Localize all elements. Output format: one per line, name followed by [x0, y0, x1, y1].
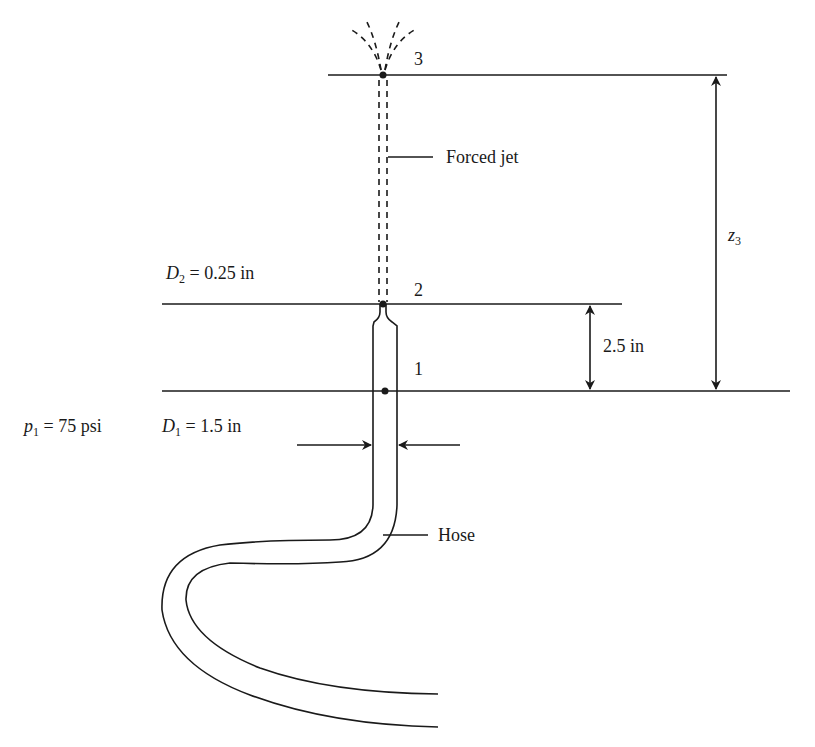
- label-point-3: 3: [414, 50, 423, 68]
- label-z3: z3: [728, 226, 741, 247]
- d2-value: = 0.25 in: [185, 263, 254, 283]
- label-p1: p1 = 75 psi: [24, 417, 102, 438]
- label-point-2: 2: [414, 281, 423, 299]
- label-forced-jet: Forced jet: [446, 148, 518, 166]
- point-1-dot: [382, 388, 389, 395]
- z3-subscript: 3: [735, 234, 741, 248]
- z3-symbol: z: [728, 225, 735, 245]
- label-d1: D1 = 1.5 in: [162, 417, 241, 438]
- label-point-1: 1: [414, 360, 423, 378]
- p1-value: = 75 psi: [39, 416, 102, 436]
- point-3-dot: [380, 72, 387, 79]
- point-2-dot: [380, 301, 387, 308]
- d1-value: = 1.5 in: [181, 416, 241, 436]
- d2-symbol: D: [166, 263, 179, 283]
- hose-jet-diagram: [0, 0, 815, 747]
- label-hose: Hose: [438, 526, 475, 544]
- d1-symbol: D: [162, 416, 175, 436]
- label-dim-2-5: 2.5 in: [603, 337, 644, 355]
- label-d2: D2 = 0.25 in: [166, 264, 254, 285]
- forced-jet: [348, 20, 418, 302]
- hose-right-wall: [186, 304, 438, 694]
- p1-symbol: p: [24, 416, 33, 436]
